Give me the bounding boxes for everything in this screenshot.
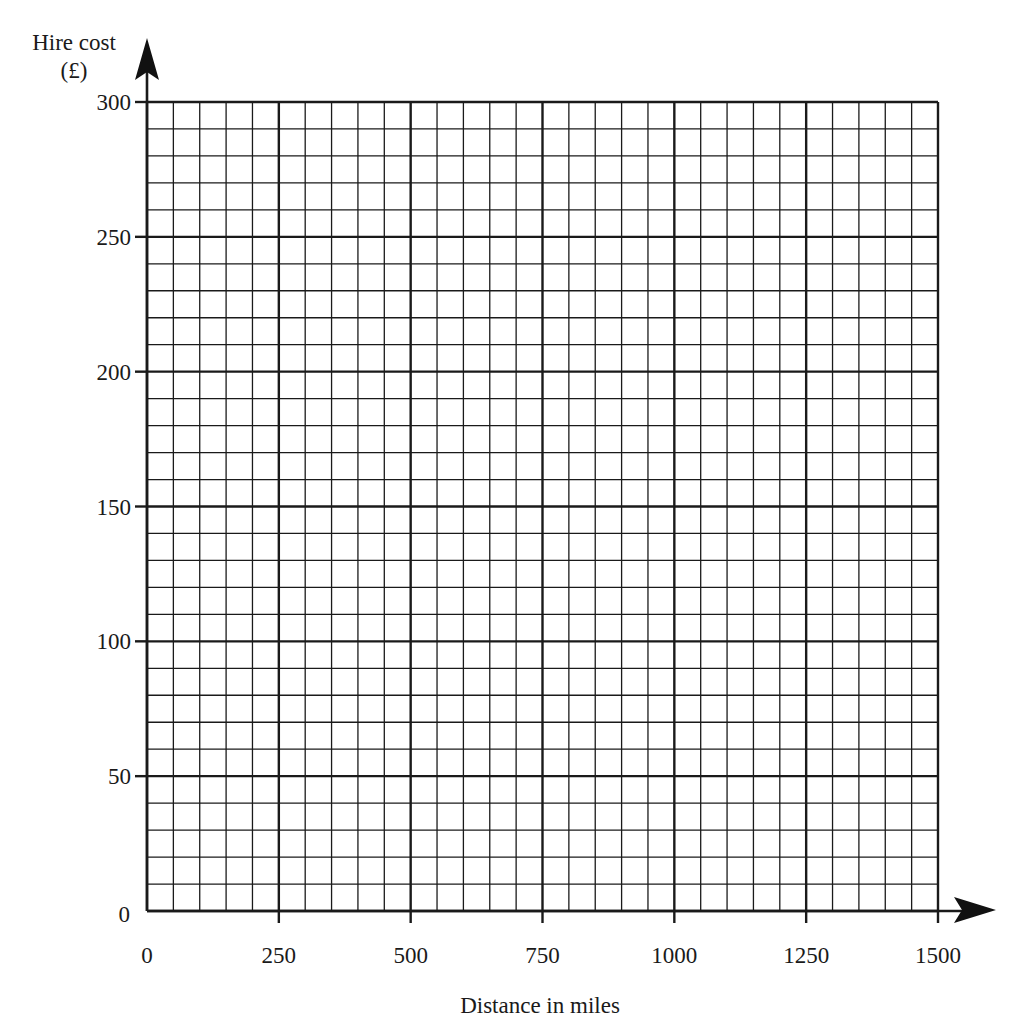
y-tick-label: 300: [97, 90, 132, 115]
y-axis-unit: (£): [61, 58, 88, 83]
x-tick-label: 250: [262, 943, 297, 968]
major-grid: [147, 102, 938, 911]
axes: [147, 60, 975, 911]
y-axis-label: Hire cost: [32, 30, 116, 55]
graph-paper-chart: 0250500750100012501500 05010015020025030…: [0, 0, 1033, 1023]
tick-marks: [135, 102, 938, 923]
x-tick-labels: 0250500750100012501500: [141, 943, 961, 968]
x-axis-label: Distance in miles: [460, 993, 620, 1018]
y-tick-label: 200: [97, 360, 132, 385]
y-tick-label: 0: [119, 902, 131, 927]
x-tick-label: 1000: [651, 943, 697, 968]
x-tick-label: 1250: [783, 943, 829, 968]
y-tick-labels: 050100150200250300: [97, 90, 132, 927]
x-tick-label: 1500: [915, 943, 961, 968]
x-tick-label: 0: [141, 943, 153, 968]
y-tick-label: 250: [97, 225, 132, 250]
y-tick-label: 50: [108, 764, 131, 789]
y-tick-label: 100: [97, 629, 132, 654]
x-tick-label: 500: [393, 943, 428, 968]
x-tick-label: 750: [525, 943, 560, 968]
y-tick-label: 150: [97, 495, 132, 520]
